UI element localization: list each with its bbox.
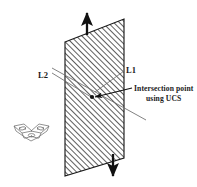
callout-intersection-point: Intersection point xyxy=(134,84,194,93)
label-l2: L2 xyxy=(38,70,48,80)
angle-bracket-wireframe-icon xyxy=(14,124,49,141)
figure-container: L1 L2 Intersection point using UCS xyxy=(0,0,197,187)
diagram-canvas: L1 L2 Intersection point using UCS xyxy=(0,0,197,187)
hatched-plane-icon xyxy=(65,19,124,176)
callout-using-ucs: using UCS xyxy=(146,94,181,103)
intersection-point-dot xyxy=(90,95,94,99)
label-l1: L1 xyxy=(126,65,136,75)
